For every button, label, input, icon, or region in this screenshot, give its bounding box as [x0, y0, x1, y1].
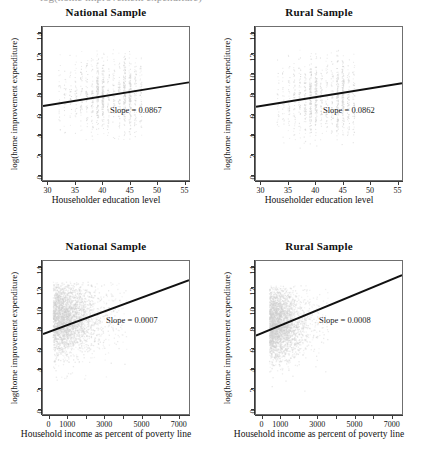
- x-axis-line: [42, 181, 190, 182]
- x-tick-label: 5000: [134, 420, 150, 429]
- regression-line: [256, 261, 402, 414]
- x-tick-label: 30: [256, 186, 264, 195]
- x-axis-title: Household income as percent of poverty l…: [213, 429, 425, 439]
- y-axis: 02468101214: [30, 260, 42, 415]
- x-tick-label: 35: [284, 186, 292, 195]
- slope-annotation: Slope = 0.0867: [110, 105, 162, 115]
- x-tick-label: 50: [366, 186, 374, 195]
- x-tick: [299, 415, 300, 419]
- x-tick-label: 1000: [59, 420, 75, 429]
- panel-title: Rural Sample: [213, 6, 425, 18]
- figure-panel-grid: log(home improvement expenditure) Nation…: [0, 0, 425, 469]
- x-tick: [343, 181, 344, 185]
- x-tick: [185, 181, 186, 185]
- x-tick: [130, 181, 131, 185]
- panel-title: National Sample: [0, 6, 212, 18]
- x-axis-line: [255, 415, 403, 416]
- plot-area: [42, 260, 190, 415]
- x-tick: [392, 415, 393, 419]
- x-tick-label: 1000: [272, 420, 288, 429]
- x-tick: [398, 181, 399, 185]
- y-axis: 02468101214: [243, 26, 255, 181]
- panel-top-left: National Sample log(home improvement exp…: [0, 0, 212, 234]
- x-tick-label: 5000: [347, 420, 363, 429]
- y-axis-title: log(home improvement expenditure): [221, 260, 233, 415]
- x-tick: [160, 415, 161, 419]
- x-axis-line: [255, 181, 403, 182]
- panel-title: Rural Sample: [213, 240, 425, 252]
- y-axis-title: log(home improvement expenditure): [8, 260, 20, 415]
- x-tick: [373, 415, 374, 419]
- x-tick: [47, 181, 48, 185]
- regression-line: [256, 27, 402, 180]
- x-tick-label: 35: [71, 186, 79, 195]
- x-tick-label: 7000: [384, 420, 400, 429]
- x-tick: [336, 415, 337, 419]
- slope-annotation: Slope = 0.0862: [323, 105, 375, 115]
- slope-annotation: Slope = 0.0007: [106, 315, 158, 325]
- x-tick-label: 45: [339, 186, 347, 195]
- y-axis-title: log(home improvement expenditure): [8, 26, 20, 181]
- x-tick-label: 7000: [171, 420, 187, 429]
- x-tick-label: 55: [394, 186, 402, 195]
- plot-area: [42, 26, 190, 181]
- x-tick: [370, 181, 371, 185]
- x-tick: [355, 415, 356, 419]
- panel-bottom-left: National Sample log(home improvement exp…: [0, 234, 212, 468]
- x-axis-title: Householder education level: [213, 195, 425, 205]
- panel-bottom-right: Rural Sample log(home improvement expend…: [213, 234, 425, 468]
- x-axis-title: Household income as percent of poverty l…: [0, 429, 212, 439]
- x-tick-label: 55: [181, 186, 189, 195]
- panel-top-right: Rural Sample log(home improvement expend…: [213, 0, 425, 234]
- x-tick: [157, 181, 158, 185]
- x-tick: [104, 415, 105, 419]
- plot-area: [255, 260, 403, 415]
- x-tick: [75, 181, 76, 185]
- x-tick: [142, 415, 143, 419]
- y-axis: 02468101214: [243, 260, 255, 415]
- panel-title: National Sample: [0, 240, 212, 252]
- x-tick-label: 0: [47, 420, 51, 429]
- x-tick: [288, 181, 289, 185]
- x-tick-label: 45: [126, 186, 134, 195]
- x-tick-label: 50: [153, 186, 161, 195]
- x-tick: [86, 415, 87, 419]
- x-tick: [280, 415, 281, 419]
- x-tick: [67, 415, 68, 419]
- regression-line: [43, 27, 189, 180]
- x-tick: [102, 181, 103, 185]
- x-axis-title: Householder education level: [0, 195, 212, 205]
- y-axis-title: log(home improvement expenditure): [221, 26, 233, 181]
- plot-area: [255, 26, 403, 181]
- y-axis: 02468101214: [30, 26, 42, 181]
- x-tick-label: 30: [43, 186, 51, 195]
- x-tick-label: 0: [260, 420, 264, 429]
- x-tick: [262, 415, 263, 419]
- regression-line: [43, 261, 189, 414]
- x-axis-line: [42, 415, 190, 416]
- x-tick: [123, 415, 124, 419]
- x-tick: [179, 415, 180, 419]
- x-tick-label: 3000: [96, 420, 112, 429]
- x-tick-label: 40: [98, 186, 106, 195]
- x-tick-label: 3000: [309, 420, 325, 429]
- x-tick-label: 40: [311, 186, 319, 195]
- x-tick: [260, 181, 261, 185]
- x-tick: [315, 181, 316, 185]
- slope-annotation: Slope = 0.0008: [319, 315, 371, 325]
- x-tick: [49, 415, 50, 419]
- x-tick: [317, 415, 318, 419]
